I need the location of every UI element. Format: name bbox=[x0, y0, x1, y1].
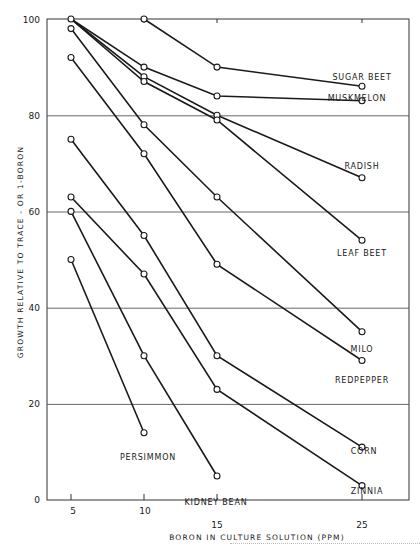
y-tick-100: 100 bbox=[23, 15, 40, 25]
line-corn bbox=[71, 139, 362, 447]
x-tick-15: 15 bbox=[211, 520, 222, 530]
line-redpepper bbox=[71, 58, 362, 361]
x-tick-5: 5 bbox=[70, 506, 76, 516]
x-tick-10: 10 bbox=[139, 506, 151, 516]
y-tick-80: 80 bbox=[29, 111, 41, 121]
x-tick-25: 25 bbox=[356, 520, 367, 530]
y-axis-title: GROWTH RELATIVE TO TRACE - OR 1-BORON bbox=[16, 146, 25, 358]
line-persimmon bbox=[71, 260, 144, 433]
line-muskmelon bbox=[71, 19, 362, 101]
line-sugar-beet bbox=[144, 19, 362, 86]
label-milo: MILO bbox=[351, 345, 374, 354]
x-tick-marks bbox=[71, 19, 362, 500]
line-leaf-beet bbox=[71, 19, 362, 240]
line-milo bbox=[71, 29, 362, 332]
y-tick-0: 0 bbox=[34, 495, 40, 505]
y-tick-labels: 100 80 60 40 20 0 bbox=[23, 15, 40, 505]
plot-frame bbox=[47, 19, 409, 500]
y-tick-40: 40 bbox=[29, 303, 41, 313]
data-markers bbox=[68, 16, 365, 489]
label-persimmon: PERSIMMON bbox=[120, 453, 176, 462]
label-sugar-beet: SUGAR BEET bbox=[332, 73, 391, 82]
x-axis-title: BORON IN CULTURE SOLUTION (PPM) bbox=[169, 533, 345, 542]
x-tick-labels: 5 10 15 25 bbox=[70, 506, 368, 530]
chart: 100 80 60 40 20 0 5 10 15 25 BORON IN CU… bbox=[0, 0, 420, 550]
y-tick-20: 20 bbox=[29, 399, 41, 409]
y-tick-60: 60 bbox=[29, 207, 41, 217]
gridlines bbox=[47, 116, 409, 405]
series-lines bbox=[71, 19, 362, 486]
label-radish: RADISH bbox=[344, 162, 379, 171]
label-muskmelon: MUSKMELON bbox=[328, 94, 387, 103]
line-kidney-bean bbox=[71, 211, 217, 476]
label-kidney-bean: KIDNEY BEAN bbox=[184, 498, 247, 507]
caption-fragment bbox=[230, 543, 420, 547]
label-redpepper: REDPEPPER bbox=[335, 376, 389, 385]
line-zinnia bbox=[71, 197, 362, 486]
label-zinnia: ZINNIA bbox=[351, 487, 383, 496]
label-corn: CORN bbox=[351, 447, 378, 456]
label-leaf-beet: LEAF BEET bbox=[337, 249, 387, 258]
